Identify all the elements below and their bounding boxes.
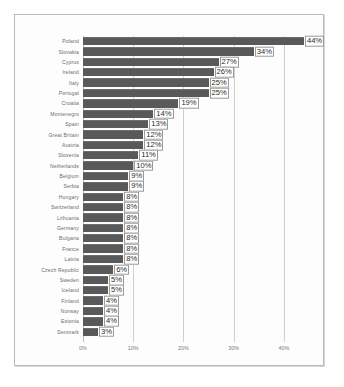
- bar-row: Belgium9%: [83, 171, 319, 181]
- category-label: Slovenia: [58, 152, 79, 158]
- bar: [83, 78, 209, 86]
- value-label: 9%: [129, 181, 144, 192]
- bar: [83, 234, 123, 242]
- value-label: 19%: [179, 98, 198, 109]
- value-label: 5%: [109, 275, 124, 286]
- chart-frame: Poland44%Slovakia34%Cyprus27%Ireland26%I…: [14, 14, 324, 366]
- value-label: 12%: [144, 140, 163, 151]
- value-label: 4%: [104, 316, 119, 327]
- category-label: Italy: [69, 80, 79, 86]
- bar-row: Czech Republic6%: [83, 264, 319, 274]
- bar: [83, 307, 103, 315]
- bar-row: Montenegro14%: [83, 109, 319, 119]
- category-label: Latvia: [65, 256, 80, 262]
- value-label: 8%: [124, 233, 139, 244]
- bar: [83, 286, 108, 294]
- bar: [83, 244, 123, 252]
- bar-row: Norway4%: [83, 306, 319, 316]
- category-label: Switzerland: [51, 204, 79, 210]
- category-label: Estonia: [61, 318, 79, 324]
- value-label: 4%: [104, 295, 119, 306]
- bar: [83, 224, 123, 232]
- category-label: Serbia: [63, 183, 79, 189]
- value-label: 44%: [305, 36, 324, 47]
- category-label: Germany: [57, 225, 79, 231]
- bar-row: Latvia8%: [83, 254, 319, 264]
- bar-row: Cyprus27%: [83, 57, 319, 67]
- bar-row: Sweden5%: [83, 275, 319, 285]
- category-label: Denmark: [57, 329, 79, 335]
- bar: [83, 141, 143, 149]
- x-tick-label: 10%: [128, 345, 139, 351]
- value-label: 9%: [129, 171, 144, 182]
- bar-row: Slovakia34%: [83, 46, 319, 56]
- bar: [83, 265, 113, 273]
- bar-row: Denmark3%: [83, 327, 319, 337]
- value-label: 10%: [134, 160, 153, 171]
- value-label: 5%: [109, 285, 124, 296]
- value-label: 25%: [210, 77, 229, 88]
- category-label: Norway: [61, 308, 79, 314]
- bar-row: Ireland26%: [83, 67, 319, 77]
- category-label: Finland: [61, 298, 79, 304]
- bar-row: France8%: [83, 244, 319, 254]
- bar: [83, 317, 103, 325]
- bar: [83, 161, 133, 169]
- category-label: Czech Republic: [41, 267, 79, 273]
- bar: [83, 47, 254, 55]
- bar: [83, 37, 304, 45]
- value-label: 8%: [124, 192, 139, 203]
- category-label: Croatia: [62, 100, 79, 106]
- bar-row: Poland44%: [83, 36, 319, 46]
- category-label: Netherlands: [50, 163, 79, 169]
- bar-row: Spain13%: [83, 119, 319, 129]
- bar-row: Croatia19%: [83, 98, 319, 108]
- category-label: Spain: [65, 121, 79, 127]
- category-label: Hungary: [59, 194, 79, 200]
- bar-row: Serbia9%: [83, 181, 319, 191]
- category-label: Slovakia: [59, 49, 79, 55]
- bar-row: Finland4%: [83, 295, 319, 305]
- plot-area: Poland44%Slovakia34%Cyprus27%Ireland26%I…: [83, 36, 319, 337]
- category-label: Belgium: [60, 173, 79, 179]
- category-label: Montenegro: [50, 111, 79, 117]
- value-label: 11%: [139, 150, 158, 161]
- bar-row: Germany8%: [83, 223, 319, 233]
- value-label: 34%: [255, 46, 274, 57]
- category-label: Cyprus: [62, 59, 79, 65]
- bar-row: Estonia4%: [83, 316, 319, 326]
- category-label: Bulgaria: [59, 235, 79, 241]
- value-label: 27%: [220, 57, 239, 68]
- bar: [83, 255, 123, 263]
- bar-row: Iceland5%: [83, 285, 319, 295]
- bar: [83, 68, 214, 76]
- bar: [83, 328, 98, 336]
- bar: [83, 276, 108, 284]
- bar: [83, 99, 178, 107]
- bar: [83, 193, 123, 201]
- bar: [83, 110, 153, 118]
- category-label: Austria: [62, 142, 79, 148]
- bar: [83, 58, 219, 66]
- bar: [83, 89, 209, 97]
- category-label: Lithuania: [57, 215, 79, 221]
- value-label: 13%: [149, 119, 168, 130]
- bar: [83, 203, 123, 211]
- bar-row: Austria12%: [83, 140, 319, 150]
- category-label: Sweden: [60, 277, 79, 283]
- value-label: 3%: [99, 327, 114, 338]
- category-label: Iceland: [62, 287, 79, 293]
- bar-row: Hungary8%: [83, 192, 319, 202]
- bar: [83, 151, 138, 159]
- bar-row: Portugal25%: [83, 88, 319, 98]
- bar: [83, 296, 103, 304]
- x-tick-label: 0%: [79, 345, 87, 351]
- category-label: Portugal: [59, 90, 79, 96]
- category-label: Poland: [62, 38, 79, 44]
- x-tick-label: 20%: [178, 345, 189, 351]
- bar-row: Great Britain12%: [83, 129, 319, 139]
- value-label: 8%: [124, 223, 139, 234]
- category-label: Ireland: [62, 69, 79, 75]
- x-tick-label: 40%: [278, 345, 289, 351]
- bar-row: Slovenia11%: [83, 150, 319, 160]
